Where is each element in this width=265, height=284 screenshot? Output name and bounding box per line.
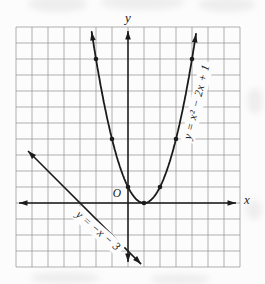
y-axis-label: y: [125, 11, 131, 24]
scan-smudge: [30, 272, 100, 284]
scan-smudge: [150, 274, 210, 284]
graph-figure: y x O y = x² − 2x + 1 y = −x − 3: [0, 0, 265, 284]
scan-smudge: [246, 200, 262, 220]
origin-label: O: [113, 188, 121, 200]
graph-canvas: [0, 0, 265, 284]
scan-smudge: [247, 88, 263, 114]
